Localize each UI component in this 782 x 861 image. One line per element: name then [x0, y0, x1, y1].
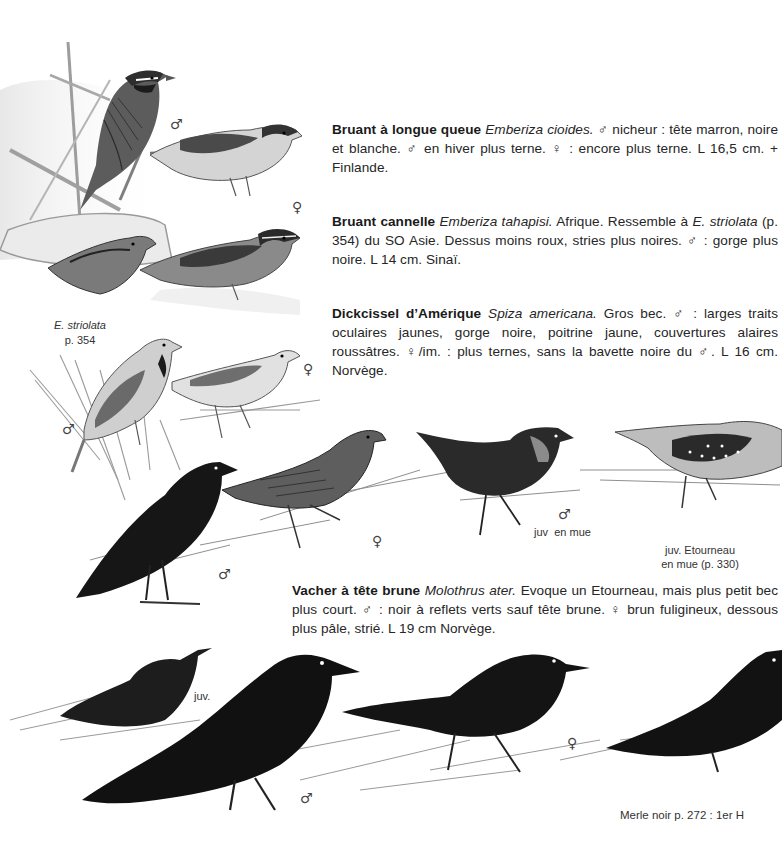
- male-symbol: ♂: [170, 116, 183, 132]
- cowbird-middle-group: [76, 422, 782, 604]
- label-striolata-name: E. striolata: [40, 318, 120, 332]
- species-name: Dickcissel d’Amérique: [332, 306, 481, 321]
- species-latin-name: Molothrus ater.: [425, 583, 517, 598]
- label-juv-en-mue: juv en mue: [534, 525, 604, 539]
- bird-vacher-juv-moulting: [416, 427, 574, 535]
- female-symbol: ♀: [567, 735, 577, 751]
- male-symbol: ♂: [300, 790, 313, 806]
- species-name: Bruant cannelle: [332, 214, 435, 229]
- species-entry-bruant-cannelle: Bruant cannelle Emberiza tahapisi. Afriq…: [332, 212, 778, 269]
- female-symbol: ♀: [292, 199, 302, 215]
- species-entry-bruant-longue-queue: Bruant à longue queue Emberiza cioides. …: [332, 120, 778, 177]
- bird-vacher-male-middle: [76, 462, 238, 604]
- bruant-longue-queue-group: [0, 42, 302, 315]
- male-symbol: ♂: [558, 506, 571, 522]
- female-symbol: ♀: [303, 361, 313, 377]
- species-entry-dickcissel: Dickcissel d’Amérique Spiza americana. G…: [332, 304, 778, 380]
- label-etourneau-line2: en mue (p. 330): [640, 557, 760, 571]
- bird-etourneau-juv-moulting: [615, 422, 782, 508]
- bottom-birds-group: [10, 642, 782, 810]
- label-etourneau-line1: juv. Etourneau: [640, 543, 760, 557]
- species-entry-vacher-tete-brune: Vacher à tête brune Molothrus ater. Evoq…: [292, 581, 778, 638]
- species-name: Bruant à longue queue: [332, 122, 481, 137]
- species-name: Vacher à tête brune: [292, 583, 420, 598]
- bird-dickcissel-male: [72, 339, 182, 472]
- bird-longue-queue-male-winter: [150, 125, 302, 196]
- species-latin-name: Emberiza cioides.: [485, 122, 593, 137]
- bird-vacher-female-middle: [222, 431, 386, 548]
- species-description-part: Afrique. Ressemble à: [553, 214, 693, 229]
- label-juv: juv.: [194, 689, 218, 703]
- female-symbol: ♀: [372, 533, 382, 549]
- bird-vacher-female-bottom: [342, 654, 590, 772]
- species-latin-name: Emberiza tahapisi.: [440, 214, 553, 229]
- male-symbol: ♂: [218, 566, 231, 582]
- label-striolata-page: p. 354: [40, 333, 120, 347]
- bird-merle-noir: [606, 650, 782, 772]
- male-symbol: ♂: [62, 421, 75, 437]
- bird-vacher-juv-bottom: [60, 642, 212, 726]
- label-merle-noir: Merle noir p. 272 : 1er H: [620, 808, 782, 822]
- bird-dickcissel-female: [172, 351, 300, 438]
- cross-reference-latin: E. striolata: [692, 214, 757, 229]
- bird-vacher-male-bottom: [82, 655, 360, 810]
- species-latin-name: Spiza americana.: [488, 306, 597, 321]
